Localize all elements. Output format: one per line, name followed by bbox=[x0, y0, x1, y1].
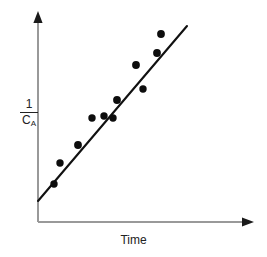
data-point bbox=[50, 180, 57, 187]
data-point bbox=[153, 49, 161, 57]
x-axis-arrowhead bbox=[242, 217, 254, 226]
x-axis-label: Time bbox=[0, 234, 267, 247]
data-point bbox=[109, 114, 116, 121]
data-point bbox=[157, 30, 165, 38]
y-axis-label-denominator-subscript: A bbox=[31, 119, 36, 128]
data-point bbox=[56, 159, 63, 166]
y-axis-label-denominator-base: C bbox=[22, 113, 31, 127]
data-point bbox=[100, 112, 107, 119]
data-point bbox=[139, 85, 146, 92]
chart-figure: 1 CA Time bbox=[0, 0, 267, 257]
data-point bbox=[88, 114, 95, 121]
best-fit-line bbox=[38, 26, 187, 201]
scatter-plot-canvas bbox=[0, 0, 267, 257]
y-axis-label: 1 CA bbox=[12, 98, 46, 126]
data-point bbox=[132, 61, 140, 69]
y-axis-label-fraction: 1 CA bbox=[20, 98, 38, 126]
y-axis-arrowhead bbox=[33, 11, 42, 23]
data-point bbox=[74, 141, 82, 149]
y-axis-label-denominator: CA bbox=[20, 114, 38, 127]
data-point bbox=[113, 96, 121, 104]
y-axis-label-numerator: 1 bbox=[20, 98, 38, 111]
